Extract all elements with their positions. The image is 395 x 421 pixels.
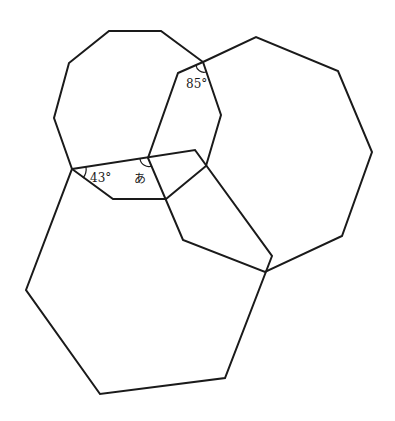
angle-label-85: 85°: [186, 77, 207, 91]
angle-label-43: 43°: [90, 171, 111, 185]
geometry-diagram: 43° 85° あ: [0, 0, 395, 421]
nonagon-shape: [148, 37, 372, 272]
angle-arc-43: [83, 167, 86, 178]
hexagon-shape: [26, 150, 272, 394]
angle-label-unknown: あ: [134, 172, 146, 186]
